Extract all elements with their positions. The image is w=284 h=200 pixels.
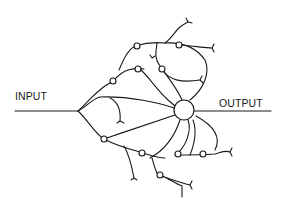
branch-lower-8 <box>196 116 217 150</box>
branch-upper-5 <box>165 43 207 100</box>
synapse-node <box>175 151 181 157</box>
terminal-lower-6 <box>230 148 232 156</box>
synapse-node <box>135 66 141 72</box>
branch-upper-6 <box>180 45 212 48</box>
branch-lower-7 <box>190 120 195 155</box>
synapse-node <box>200 151 206 157</box>
branch-lower-9 <box>160 175 182 197</box>
synapse-node <box>159 66 165 72</box>
central-node <box>174 100 194 120</box>
terminal-lower-4 <box>190 181 192 189</box>
branch-lower-5 <box>175 120 189 155</box>
synapse-node <box>176 42 182 48</box>
branch-main-lower <box>78 111 175 139</box>
branch-lower-2 <box>124 146 134 178</box>
synapse-node <box>157 172 163 178</box>
terminal-upper-6 <box>212 44 214 52</box>
branch-lower-1 <box>104 139 165 158</box>
branch-upper-apex <box>165 22 188 43</box>
input-label: INPUT <box>15 90 47 102</box>
terminal-lower-2 <box>131 178 137 180</box>
branch-upper-2 <box>119 43 165 70</box>
synapse-node <box>139 150 145 156</box>
dendrite-left-mid <box>110 98 120 121</box>
branch-upper-inner <box>162 70 200 81</box>
terminal-upper-mid <box>150 55 155 58</box>
terminal-left-mid <box>117 121 124 123</box>
output-label: OUTPUT <box>219 97 263 109</box>
terminal-upper-inner <box>200 76 203 83</box>
synapse-node <box>134 43 140 49</box>
synapse-node <box>101 136 107 142</box>
branch-main-upper <box>78 97 174 111</box>
synapse-node <box>110 78 116 84</box>
